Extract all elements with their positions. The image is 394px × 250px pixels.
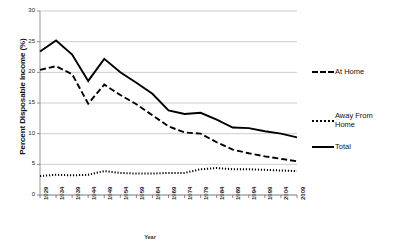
legend-swatch-dashed-icon [312,68,334,75]
legend-swatch-dotted-icon [312,117,334,124]
legend-item-away-from-home[interactable]: Away From Home [312,111,387,129]
legend-label-at-home: At Home [335,67,364,76]
series-line-at-home [40,66,297,161]
legend-swatch-solid-icon [312,143,334,150]
series-line-away-from-home [40,168,297,176]
series-line-total [40,40,297,137]
x-axis-title: Year [0,234,300,240]
legend-label-away-from-home: Away From Home [335,111,387,129]
chart-figure: Percent Disposable Income (%) 0510152025… [0,0,394,250]
legend-item-at-home[interactable]: At Home [312,66,364,76]
legend-item-total[interactable]: Total [312,141,351,151]
legend-label-total: Total [335,142,351,151]
